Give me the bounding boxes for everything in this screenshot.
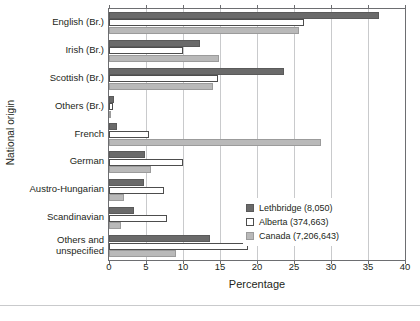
bar-2 [109,222,121,229]
legend-label: Alberta (374,663) [259,217,329,227]
bar-0 [109,12,379,19]
bar-2 [109,83,213,90]
bar-2 [109,194,124,201]
x-tick-mark [257,5,258,9]
bar-1 [109,243,248,250]
category-label: Scottish (Br.) [20,72,104,83]
x-tick-mark [368,5,369,9]
gridline [368,9,369,260]
bar-0 [109,40,200,47]
x-tick-mark [331,5,332,9]
bar-0 [109,235,210,242]
category-label: Others (Br.) [20,100,104,111]
x-tick-mark [146,5,147,9]
bar-1 [109,187,164,194]
bar-0 [109,207,134,214]
bar-2 [109,250,176,257]
legend-item[interactable]: Canada (7,206,643) [246,229,339,243]
category-label: Scandinavian [20,212,104,223]
category-label: German [20,156,104,167]
bar-1 [109,215,167,222]
legend-swatch-icon [246,218,254,226]
category-label: English (Br.) [20,17,104,28]
bar-0 [109,151,145,158]
bar-1 [109,131,149,138]
bar-chart: National origin English (Br.)Irish (Br.)… [0,0,420,321]
legend-label: Lethbridge (8,050) [259,203,333,213]
category-label: Austro-Hungarian [20,184,104,195]
legend-swatch-icon [246,204,254,212]
x-tick-mark [183,5,184,9]
x-tick-label: 40 [400,261,411,272]
x-tick-label: 10 [178,261,189,272]
bar-2 [109,166,151,173]
x-tick-label: 5 [143,261,148,272]
x-tick-label: 15 [215,261,226,272]
chart-legend: Lethbridge (8,050)Alberta (374,663)Canad… [243,198,343,246]
bar-1 [109,159,183,166]
legend-swatch-icon [246,232,254,240]
bar-0 [109,96,114,103]
x-tick-mark [220,5,221,9]
bar-2 [109,139,321,146]
x-tick-label: 30 [326,261,337,272]
x-tick-mark [109,5,110,9]
x-tick-label: 20 [252,261,263,272]
bar-0 [109,179,144,186]
bar-1 [109,19,304,26]
category-label: French [20,128,104,139]
x-tick-label: 25 [289,261,300,272]
x-tick-mark [405,5,406,9]
x-tick-label: 35 [363,261,374,272]
bar-2 [109,55,219,62]
x-tick-mark [294,5,295,9]
legend-item[interactable]: Lethbridge (8,050) [246,201,339,215]
y-axis-title: National origin [0,0,22,265]
bar-1 [109,75,218,82]
bar-1 [109,47,183,54]
bar-1 [109,103,113,110]
category-label: Irish (Br.) [20,45,104,56]
bar-2 [109,27,299,34]
legend-item[interactable]: Alberta (374,663) [246,215,339,229]
category-axis: English (Br.)Irish (Br.)Scottish (Br.)Ot… [22,8,107,259]
x-tick-label: 0 [106,261,111,272]
category-label: Others and unspecified [20,235,104,256]
legend-label: Canada (7,206,643) [259,231,339,241]
x-axis-title: Percentage [108,278,406,290]
x-axis: 0510152025303540 [108,261,406,277]
page-divider [0,305,420,306]
y-axis-title-text: National origin [6,100,17,165]
bar-0 [109,68,284,75]
bar-0 [109,123,117,130]
gridline [220,9,221,260]
bar-2 [109,111,111,118]
